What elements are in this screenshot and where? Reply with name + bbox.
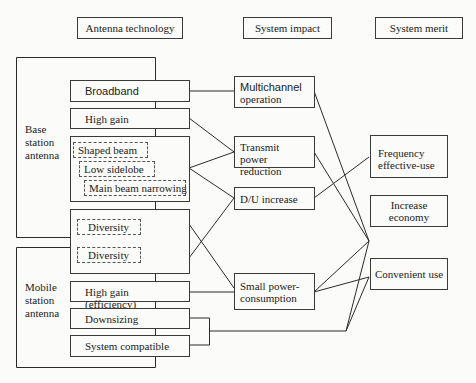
merit-label-line: economy — [389, 211, 429, 223]
link-beam-du — [189, 168, 234, 198]
impact-label-line: consumption — [240, 292, 309, 304]
impact-multichannel-operation: Multichannel operation — [234, 76, 315, 108]
group-label-line: antenna — [25, 149, 59, 162]
tech-diversity-1: Diversity — [77, 219, 141, 235]
tech-shaped-beam: Shaped beam — [73, 142, 148, 158]
group-label-line: station — [25, 136, 59, 149]
tech-label: Downsizing — [71, 309, 189, 328]
impact-small-power-consumption: Small power- consumption — [234, 273, 315, 310]
merit-label-line: effective-use — [378, 159, 440, 171]
impact-label-line: Multichannel — [240, 81, 309, 93]
impact-label: D/U increase — [240, 193, 309, 205]
group-label-line: antenna — [25, 307, 59, 320]
merit-frequency-effective-use: Frequency effective-use — [370, 135, 448, 178]
link-highgain-transmit — [189, 118, 234, 152]
tech-high-gain: High gain — [70, 108, 190, 129]
header-label: Antenna technology — [86, 22, 175, 34]
header-system-impact: System impact — [243, 17, 332, 39]
header-label: System impact — [255, 22, 320, 34]
merit-increase-economy: Increase economy — [370, 195, 448, 227]
header-system-merit: System merit — [375, 17, 463, 39]
header-label: System merit — [390, 22, 448, 34]
tech-broadband: Broadband — [70, 80, 190, 102]
link-du-frequency — [314, 157, 369, 198]
merit-label-line: Increase — [391, 199, 428, 211]
impact-label-line: Small power- — [240, 280, 309, 292]
tech-label: Broadband — [71, 81, 189, 100]
group-label-line: Mobile — [25, 281, 59, 294]
tech-label: System compatible — [71, 336, 189, 355]
tech-main-beam-narrowing: Main beam narrowing — [84, 180, 186, 196]
link-downsizing-bracket — [189, 318, 346, 345]
merit-label-line: Frequency — [378, 147, 440, 159]
tech-label: High gain — [71, 109, 189, 128]
group-label-line: Base — [25, 123, 59, 136]
tech-diversity-2: Diversity — [77, 247, 141, 263]
impact-label-line: operation — [240, 93, 309, 105]
merit-convenient-use: Convenient use — [370, 258, 448, 290]
impact-label-line: Transmit power — [240, 141, 309, 165]
impact-label-line: reduction — [240, 165, 309, 177]
link-beam-transmit — [189, 152, 234, 168]
group-label-line: station — [25, 294, 59, 307]
link-diversity-small — [189, 224, 234, 288]
merit-label: Convenient use — [375, 268, 443, 280]
tech-beam-shaping-group: Shaped beam Low sidelobe Main beam narro… — [70, 136, 190, 202]
header-antenna-technology: Antenna technology — [77, 17, 183, 39]
group-label-base-station-block: Base station antenna — [25, 123, 59, 162]
tech-system-compatible: System compatible — [70, 335, 190, 357]
tech-diversity-group: Diversity Diversity — [70, 209, 190, 274]
impact-transmit-power-reduction: Transmit power reduction — [234, 136, 315, 168]
group-label-mobile-station: Mobile station antenna — [25, 281, 59, 320]
tech-low-sidelobe: Low sidelobe — [79, 161, 155, 177]
link-diversity-du — [189, 198, 234, 258]
tech-high-gain-efficiency: High gain (efficiency) — [70, 281, 190, 302]
impact-du-increase: D/U increase — [234, 187, 315, 210]
tech-downsizing: Downsizing — [70, 308, 190, 329]
